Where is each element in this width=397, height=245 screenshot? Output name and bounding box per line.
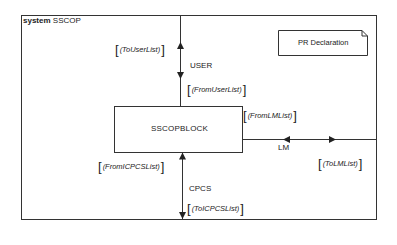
block-label: SSCOPBLOCK — [151, 124, 208, 133]
arrow-down-icon — [177, 72, 184, 79]
signal-list-to-lm: [ (ToLMList) ] — [318, 156, 362, 170]
signal-list-text: (ToLMList) — [322, 159, 359, 168]
signal-list-text: (ToICPCSList) — [191, 204, 241, 213]
signal-list-from-user: [ (FromUserList) ] — [187, 82, 246, 96]
system-title: system SSCOP — [23, 16, 81, 25]
channel-user-label: USER — [190, 61, 212, 70]
channel-lm-label: LM — [278, 143, 289, 152]
pr-declaration-label: PR Declaration — [298, 38, 348, 47]
signal-list-from-cpcs: [ (FromICPCSList) ] — [98, 159, 164, 173]
signal-list-to-user: [ (ToUserList) ] — [115, 42, 165, 56]
signal-list-text: (FromUserList) — [191, 85, 243, 94]
channel-cpcs-label: CPCS — [189, 184, 211, 193]
arrow-right-icon — [329, 136, 336, 143]
signal-list-text: (FromICPCSList) — [102, 162, 161, 171]
signal-list-to-cpcs: [ (ToICPCSList) ] — [187, 201, 244, 215]
system-name: SSCOP — [53, 16, 81, 25]
arrow-left-icon — [283, 136, 290, 143]
signal-list-from-lm: [ (FromLMList) ] — [243, 108, 297, 122]
arrow-up-icon — [177, 42, 184, 49]
signal-list-text: (FromLMList) — [247, 111, 294, 120]
signal-list-text: (ToUserList) — [119, 45, 162, 54]
arrow-down-icon — [179, 212, 186, 219]
system-keyword: system — [23, 16, 51, 25]
arrow-up-icon — [179, 153, 186, 160]
